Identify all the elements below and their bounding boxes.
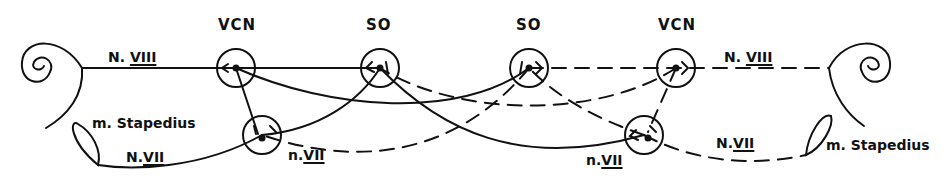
nerve-vii-left-line xyxy=(98,135,262,167)
stapedius-left-label: m. Stapedius xyxy=(92,116,196,130)
nucleus-vii-right-label: n.VII xyxy=(586,153,623,167)
stapedius-right-label: m. Stapedius xyxy=(826,138,930,152)
nerve-viii-left-label: N. VIII xyxy=(108,50,156,64)
cochlea-left-icon xyxy=(22,44,82,128)
cochlea-right-icon xyxy=(829,44,890,126)
nerve-viii-right-label: N. VIII xyxy=(724,50,772,64)
nucleus-vii-left-label: n.VII xyxy=(288,148,325,162)
so-right-label: SO xyxy=(516,18,542,33)
nerve-vii-right-label: N.VII xyxy=(716,136,754,150)
nerve-vii-left-label: N.VII xyxy=(126,150,164,164)
vcn-right-label: VCN xyxy=(658,18,696,33)
vcn-left-label: VCN xyxy=(218,18,256,33)
so-left-label: SO xyxy=(366,18,392,33)
